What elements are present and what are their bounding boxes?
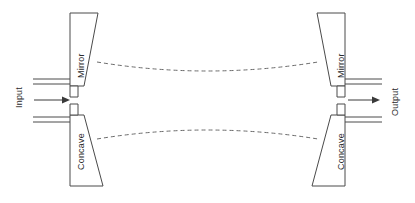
left-bottom-concave-foot	[70, 104, 78, 115]
diagram-canvas: Input Mirror Concave Mirror Concave Outp…	[0, 0, 415, 203]
left-bottom-concave-block	[70, 115, 103, 186]
right-top-mirror-foot	[337, 86, 345, 97]
label-concave-right: Concave	[336, 133, 346, 170]
right-bottom-concave-foot	[337, 104, 345, 115]
left-top-mirror-foot	[70, 86, 78, 97]
label-output: Output	[390, 87, 400, 116]
beam-envelope-upper-curve	[97, 62, 318, 71]
beam-envelope-lower-curve	[97, 130, 318, 139]
label-input: Input	[14, 87, 24, 108]
output-arrow-head	[372, 97, 380, 104]
input-arrow-head	[62, 97, 70, 104]
label-mirror-right: Mirror	[336, 53, 346, 78]
label-mirror-left: Mirror	[76, 53, 86, 78]
label-concave-left: Concave	[76, 133, 86, 170]
optical-cavity-diagram: Input Mirror Concave Mirror Concave Outp…	[0, 0, 415, 203]
